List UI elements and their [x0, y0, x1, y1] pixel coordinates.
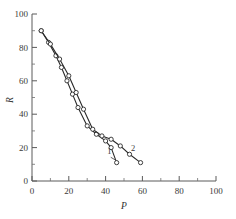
x-tick-label-40: 40: [101, 186, 111, 196]
y-tick-label-100: 100: [15, 9, 29, 19]
chart-figure: 0 20 40 60 80 100 0 20 40 60 80 100 P R …: [0, 0, 236, 219]
x-tick-label-60: 60: [138, 186, 148, 196]
y-tick-label-40: 40: [19, 109, 29, 119]
data-point-marker: [91, 127, 95, 131]
data-point-marker: [74, 90, 78, 94]
data-point-marker: [115, 161, 119, 165]
series-2: [39, 29, 143, 165]
data-point-marker: [85, 124, 89, 128]
y-tick-label-20: 20: [19, 143, 29, 153]
y-tick-label-60: 60: [19, 76, 29, 86]
x-axis-title: P: [120, 201, 127, 211]
curve-label-1: 1: [107, 146, 111, 156]
data-point-marker: [65, 79, 69, 83]
y-tick-label-0: 0: [24, 176, 29, 186]
data-point-marker: [76, 105, 80, 109]
data-series-layer: [39, 29, 143, 165]
x-tick-label-0: 0: [30, 186, 35, 196]
data-point-marker: [138, 161, 142, 165]
data-point-marker: [48, 42, 52, 46]
data-point-marker: [118, 144, 122, 148]
data-point-marker: [39, 29, 43, 33]
y-tick-label-80: 80: [19, 43, 29, 53]
y-axis-title: R: [5, 97, 15, 104]
x-tick-label-20: 20: [64, 186, 74, 196]
data-point-marker: [67, 74, 71, 78]
x-tick-label-100: 100: [209, 186, 223, 196]
data-point-marker: [81, 107, 85, 111]
x-tick-label-80: 80: [175, 186, 185, 196]
data-point-marker: [109, 137, 113, 141]
chart-canvas: 0 20 40 60 80 100 0 20 40 60 80 100 P R …: [0, 0, 236, 219]
series-1: [39, 29, 119, 165]
data-point-marker: [100, 134, 104, 138]
data-point-marker: [104, 139, 108, 143]
curve-label-2: 2: [131, 143, 135, 153]
series-line-2: [41, 31, 140, 163]
data-point-marker: [58, 57, 62, 61]
